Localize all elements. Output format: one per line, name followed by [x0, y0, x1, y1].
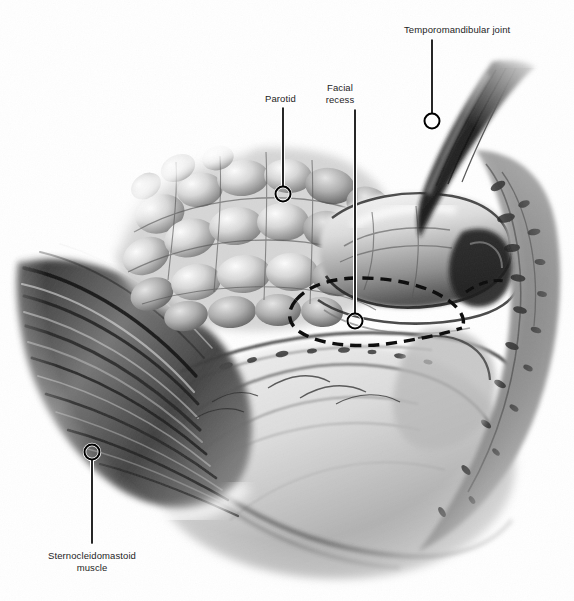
label-facial-recess: Facial recess	[53, 82, 574, 105]
anatomical-figure: Temporomandibular joint Parotid Facial r…	[0, 0, 574, 601]
label-sternocleidomastoid-muscle: Sternocleidomastoid muscle	[0, 550, 379, 573]
label-temporomandibular-joint: Temporomandibular joint	[404, 24, 510, 36]
